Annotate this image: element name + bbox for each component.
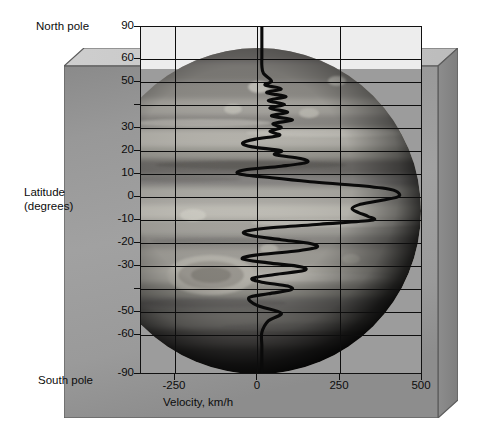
ytickmark-10 [134, 173, 140, 174]
latitude-axis-ticks: 90 60 50 30 20 10 0 -10 -20 -30 -50 -60 … [100, 26, 134, 374]
gridline-h-60 [141, 59, 421, 60]
gridline-h-20 [141, 151, 421, 152]
latitude-axis-title-line2: (degrees) [24, 200, 73, 214]
gridline-h--20 [141, 243, 421, 244]
ytick-20: 20 [121, 144, 134, 155]
gridline-h-50 [141, 82, 421, 83]
ytickmark-50 [134, 81, 140, 82]
ytickmark-30 [134, 127, 140, 128]
ytickmark-20 [134, 150, 140, 151]
latitude-axis-title-line1: Latitude [24, 186, 73, 200]
north-pole-label: North pole [36, 20, 89, 32]
gridline-h-10 [141, 174, 421, 175]
ytick--50: -50 [117, 305, 134, 316]
ytickmark--50 [134, 311, 140, 312]
xtick-500: 500 [411, 379, 430, 391]
ytickmark-60 [134, 58, 140, 59]
gridline-v-250 [340, 27, 341, 373]
ytickmark--60 [134, 334, 140, 335]
plot-area [140, 26, 422, 374]
ytick-90: 90 [121, 20, 134, 31]
gridline-v--250 [175, 27, 176, 373]
ytick--20: -20 [117, 236, 134, 247]
gridline-h--30 [141, 266, 421, 267]
velocity-axis-title-text: Velocity, km/h [163, 396, 233, 408]
ytick--30: -30 [117, 259, 134, 270]
ytick--10: -10 [117, 213, 134, 224]
jupiter-globe-image [141, 27, 422, 374]
ytickmark--30 [134, 265, 140, 266]
ytickmark--20 [134, 242, 140, 243]
ytickmark-40 [134, 104, 140, 105]
ytickmark--90 [134, 373, 140, 374]
gridline-h--50 [141, 312, 421, 313]
ytickmark-90 [134, 26, 140, 27]
xtick-250: 250 [329, 379, 348, 391]
ytick-60: 60 [121, 52, 134, 63]
latitude-axis-title: Latitude (degrees) [24, 186, 73, 213]
ytick-50: 50 [121, 75, 134, 86]
ytick--90: -90 [117, 367, 134, 378]
figure-root: 90 60 50 30 20 10 0 -10 -20 -30 -50 -60 … [0, 0, 478, 441]
ytickmark-0 [134, 196, 140, 197]
ytick-30: 30 [121, 121, 134, 132]
xtick-0: 0 [254, 379, 260, 391]
gridline-h--10 [141, 220, 421, 221]
ytickmark--40 [134, 288, 140, 289]
gridline-h-30 [141, 128, 421, 129]
ytick--60: -60 [117, 328, 134, 339]
ytick-10: 10 [121, 167, 134, 178]
velocity-axis-title: Velocity, km/h [0, 396, 478, 408]
ytickmark--10 [134, 219, 140, 220]
gridline-h--40 [141, 289, 421, 290]
gridline-h-40 [141, 105, 421, 106]
gridline-h--60 [141, 335, 421, 336]
gridline-v-0 [257, 27, 258, 373]
gridline-h-0 [141, 197, 421, 198]
xtick--250: -250 [162, 379, 185, 391]
south-pole-label: South pole [38, 374, 93, 386]
